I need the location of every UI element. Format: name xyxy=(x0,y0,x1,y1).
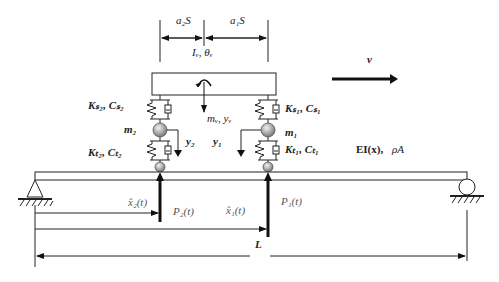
velocity-label: v xyxy=(367,53,372,65)
left-axle-mass xyxy=(153,123,167,137)
bridge-beam xyxy=(35,172,467,180)
body-mass-label: mᵥ, yᵥ xyxy=(207,112,231,124)
body-inertia-label: Iᵥ, θᵥ xyxy=(191,46,213,58)
position-dimensions xyxy=(35,205,467,267)
vehicle-body xyxy=(152,73,276,95)
beam-stiffness-label: EI(x), xyxy=(356,143,383,156)
pin-support xyxy=(18,180,53,206)
left-axle-disp-label: y₂ xyxy=(184,135,195,147)
beam-mass-label: ρA xyxy=(391,143,404,155)
right-suspension-label: Kₛ₁, Cₛ₁ xyxy=(284,102,321,114)
right-wheel xyxy=(263,162,273,172)
right-axle-disp-label: y₁ xyxy=(211,135,222,147)
axle-spacing-dimensions xyxy=(160,20,268,62)
position-x1-label: x̂₁(t) xyxy=(225,204,245,217)
left-wheel xyxy=(155,162,165,172)
span-length-label: L xyxy=(254,238,262,250)
right-axle-mass xyxy=(261,123,275,137)
roller-support xyxy=(450,179,484,203)
a2s-label: a₂S xyxy=(176,14,191,26)
right-axle-mass-label: m₁ xyxy=(285,126,297,138)
left-suspension-label: Kₛ₂, Cₛ₂ xyxy=(87,99,124,111)
left-tire-label: Kₜ₂, Cₜ₂ xyxy=(87,146,122,158)
vehicle-bridge-diagram: a₂S a₁S Iᵥ, θᵥ mᵥ, yᵥ v Kₛ₂, Cₛ₂ m₂ y₂ K… xyxy=(0,0,499,282)
right-tire-label: Kₜ₁, Cₜ₁ xyxy=(284,143,319,155)
force-p1-label: P₁(t) xyxy=(280,195,302,208)
position-x2-label: x̂₂(t) xyxy=(127,196,147,209)
a1s-label: a₁S xyxy=(230,14,245,26)
force-p2-label: P₂(t) xyxy=(172,205,194,218)
left-axle-mass-label: m₂ xyxy=(124,123,137,135)
